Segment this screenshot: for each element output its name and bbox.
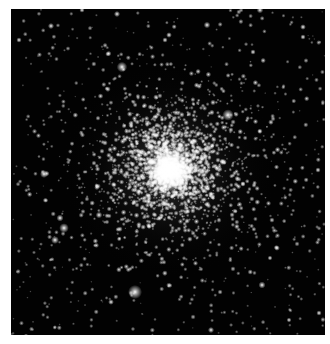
globular-cluster-canvas <box>11 9 325 335</box>
star-field-image <box>11 9 325 335</box>
